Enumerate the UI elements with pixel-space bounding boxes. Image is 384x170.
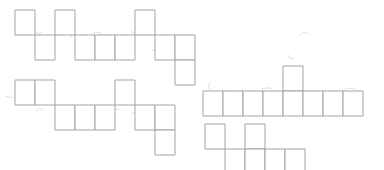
grid-cell xyxy=(285,149,305,170)
mark-middle-right-i xyxy=(288,55,294,59)
grid-cell xyxy=(95,35,115,60)
grid-cell xyxy=(203,91,223,116)
grid-cell xyxy=(245,149,265,170)
grid-cell xyxy=(263,91,283,116)
grid-cell xyxy=(15,80,35,105)
grid-cell xyxy=(175,35,195,60)
grid-cell xyxy=(135,10,155,35)
grid-cell xyxy=(115,80,135,105)
bottom-left-net xyxy=(15,80,175,155)
grid-cell xyxy=(343,91,363,116)
grid-cell xyxy=(245,124,265,149)
diagram-canvas xyxy=(0,0,384,170)
grid-cell xyxy=(205,124,225,149)
grid-cell xyxy=(35,35,55,60)
grid-cell xyxy=(35,80,55,105)
mark-middle-right-a xyxy=(208,82,211,90)
polyomino-net-diagram xyxy=(0,0,384,170)
grid-cell xyxy=(115,35,135,60)
top-left-net xyxy=(15,10,195,85)
grid-cell xyxy=(75,105,95,130)
grid-cell xyxy=(283,91,303,116)
grid-cell xyxy=(265,149,285,170)
grid-cell xyxy=(323,91,343,116)
grid-cell xyxy=(303,91,323,116)
grid-cell xyxy=(223,91,243,116)
grid-cell xyxy=(155,35,175,60)
mark-top-left-e xyxy=(92,32,102,34)
grid-cell xyxy=(155,105,175,130)
grid-cell xyxy=(15,10,35,35)
middle-right-net xyxy=(203,66,363,116)
grid-cell xyxy=(243,91,263,116)
grid-cell xyxy=(155,130,175,155)
mark-middle-right-c xyxy=(262,88,273,90)
grid-cell xyxy=(55,105,75,130)
bottom-right-net xyxy=(205,124,305,170)
mark-middle-right-h xyxy=(300,32,308,35)
grid-cell xyxy=(175,60,195,85)
grid-cell xyxy=(135,105,155,130)
grid-cell xyxy=(55,10,75,35)
mark-bottom-left-c xyxy=(36,108,43,112)
mark-middle-right-g xyxy=(344,88,356,90)
grid-cell xyxy=(283,66,303,91)
grid-cell xyxy=(95,105,115,130)
grid-cell xyxy=(75,35,95,60)
grid-cell xyxy=(225,149,245,170)
shape-layer xyxy=(15,10,363,170)
